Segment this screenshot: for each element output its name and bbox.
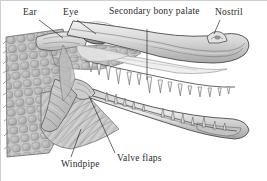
label-nostril-text: Nostril xyxy=(215,7,243,17)
label-valve-flaps-text: Valve flaps xyxy=(117,153,162,163)
label-windpipe-text: Windpipe xyxy=(61,159,100,169)
label-valve-flaps: Valve flaps xyxy=(117,153,175,164)
label-windpipe: Windpipe xyxy=(61,159,111,170)
label-nostril: Nostril xyxy=(215,7,259,18)
label-palate-text: Secondary bony palate xyxy=(109,6,200,16)
anatomical-figure: Ear Eye Secondary bony palate Nostril Wi… xyxy=(0,0,267,181)
label-eye-text: Eye xyxy=(63,7,78,17)
label-ear-text: Ear xyxy=(23,7,37,17)
label-ear: Ear xyxy=(23,7,53,18)
label-secondary-bony-palate: Secondary bony palate xyxy=(109,6,187,17)
label-eye: Eye xyxy=(63,7,93,18)
